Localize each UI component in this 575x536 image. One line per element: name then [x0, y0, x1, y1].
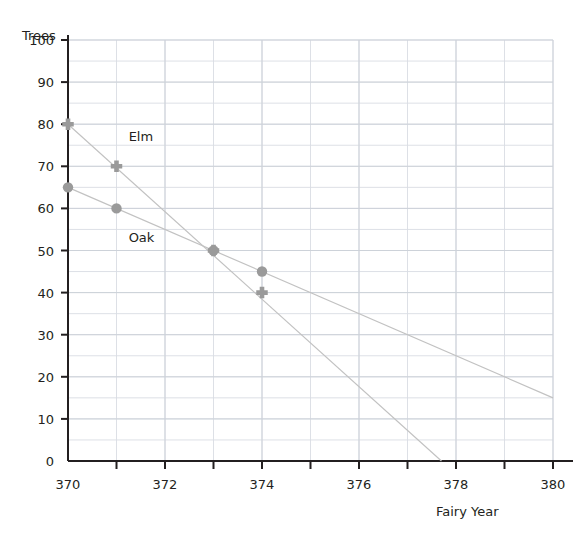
series-label-oak: Oak — [129, 230, 155, 245]
y-axis-tick-labels: 0102030405060708090100 — [29, 33, 54, 469]
data-point-marker-oak — [111, 203, 121, 213]
y-tick-label: 0 — [46, 454, 54, 469]
y-tick-label: 20 — [37, 370, 54, 385]
x-tick-label: 380 — [541, 477, 566, 492]
y-tick-label: 80 — [37, 117, 54, 132]
x-axis-tick-labels: 370372374376378380 — [56, 477, 566, 492]
x-tick-label: 372 — [153, 477, 178, 492]
y-tick-label: 30 — [37, 328, 54, 343]
x-axis-title: Fairy Year — [436, 504, 499, 519]
trees-vs-fairy-year-line-chart: 370372374376378380 010203040506070809010… — [0, 0, 575, 536]
y-tick-label: 50 — [37, 244, 54, 259]
axis-lines — [68, 35, 573, 461]
data-point-marker-elm — [111, 161, 122, 173]
x-tick-label: 376 — [347, 477, 372, 492]
y-tick-label: 90 — [37, 75, 54, 90]
y-tick-label: 40 — [37, 286, 54, 301]
data-point-marker-oak — [63, 182, 73, 192]
series-label-elm: Elm — [129, 129, 154, 144]
chart-container: 370372374376378380 010203040506070809010… — [0, 0, 575, 536]
x-tick-label: 378 — [444, 477, 469, 492]
y-axis-title: Trees — [21, 28, 56, 43]
y-tick-label: 70 — [37, 159, 54, 174]
y-tick-label: 10 — [37, 412, 54, 427]
y-tick-label: 60 — [37, 201, 54, 216]
x-tick-label: 370 — [56, 477, 81, 492]
data-point-marker-elm — [256, 287, 268, 299]
data-point-marker-oak — [257, 266, 267, 276]
tick-marks — [61, 40, 553, 469]
data-point-marker-oak — [208, 245, 218, 255]
x-tick-label: 374 — [250, 477, 275, 492]
